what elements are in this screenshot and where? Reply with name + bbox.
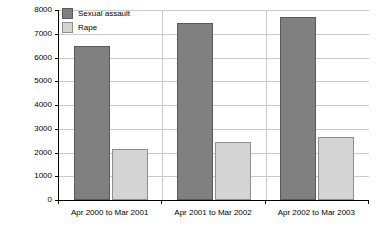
x-tick-mark xyxy=(58,200,59,204)
y-tick-label: 0 xyxy=(4,196,52,204)
legend-item: Rape xyxy=(62,22,130,33)
legend-swatch-icon xyxy=(62,8,73,19)
y-tick-mark xyxy=(55,105,59,106)
x-tick-mark xyxy=(368,200,369,204)
legend-label: Sexual assault xyxy=(78,9,130,18)
y-tick-mark xyxy=(55,10,59,11)
bar-sexual-assault-0 xyxy=(74,46,110,200)
legend-item: Sexual assault xyxy=(62,8,130,19)
y-tick-mark xyxy=(55,81,59,82)
legend-label: Rape xyxy=(78,23,97,32)
y-tick-mark xyxy=(55,153,59,154)
bar-rape-1 xyxy=(215,142,251,200)
y-tick-mark xyxy=(55,176,59,177)
bar-sexual-assault-2 xyxy=(280,17,316,200)
y-tick-label: 2000 xyxy=(4,149,52,157)
bar-rape-0 xyxy=(112,149,148,200)
chart-legend: Sexual assaultRape xyxy=(62,8,130,36)
y-tick-mark xyxy=(55,34,59,35)
x-tick-label: Apr 2002 to Mar 2003 xyxy=(265,208,368,217)
bar-chart: 010002000300040005000600070008000 Apr 20… xyxy=(0,0,383,239)
y-tick-label: 5000 xyxy=(4,77,52,85)
x-tick-label: Apr 2000 to Mar 2001 xyxy=(58,208,161,217)
y-tick-label: 8000 xyxy=(4,6,52,14)
x-tick-label: Apr 2001 to Mar 2002 xyxy=(161,208,264,217)
category-separator xyxy=(266,10,267,200)
y-tick-mark xyxy=(55,129,59,130)
y-tick-mark xyxy=(55,58,59,59)
x-tick-mark xyxy=(265,200,266,204)
bar-rape-2 xyxy=(318,137,354,200)
category-separator xyxy=(162,10,163,200)
y-tick-label: 4000 xyxy=(4,101,52,109)
plot-area xyxy=(58,10,369,201)
y-tick-label: 3000 xyxy=(4,125,52,133)
y-tick-label: 6000 xyxy=(4,54,52,62)
y-tick-label: 1000 xyxy=(4,172,52,180)
legend-swatch-icon xyxy=(62,22,73,33)
x-tick-mark xyxy=(161,200,162,204)
bar-sexual-assault-1 xyxy=(177,23,213,200)
y-tick-label: 7000 xyxy=(4,30,52,38)
